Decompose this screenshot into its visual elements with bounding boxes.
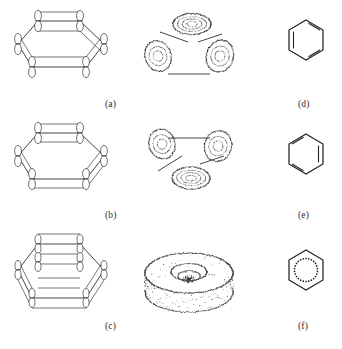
- p-orbital-lobe: [35, 235, 41, 254]
- p-orbital-lobe: [15, 145, 22, 166]
- p-orbital-lobe: [83, 168, 90, 189]
- p-orbital-lobe: [83, 56, 90, 77]
- p-orbital-lobe: [77, 235, 83, 254]
- panel-b-dotted-isosurface: [138, 116, 246, 208]
- p-orbital-lobe: [15, 261, 21, 280]
- panel-a-dotted-isosurface: [138, 4, 246, 96]
- aromatic-circle-dots: [294, 258, 319, 283]
- p-orbital-lobe: [101, 261, 107, 280]
- panel-c-wireframe-orbital-ring: [8, 228, 118, 324]
- p-orbital-lobe: [29, 289, 35, 308]
- figure-canvas: (a) (b) (c) (d) (e) (f): [0, 0, 342, 349]
- panel-b-wireframe-orbital-ring: [8, 116, 118, 208]
- panel-f-aromatic-hexagon: [282, 246, 330, 300]
- panel-e-kekule-hexagon: [282, 130, 330, 184]
- p-orbital-lobe: [29, 56, 36, 77]
- p-orbital-lobe: [83, 289, 89, 308]
- p-orbital-lobe: [101, 145, 108, 166]
- panel-a-wireframe-orbital-ring: [8, 4, 118, 96]
- caption-f: (f): [298, 321, 308, 331]
- caption-a: (a): [105, 99, 116, 109]
- p-orbital-lobe: [35, 253, 41, 272]
- p-orbital-lobe: [77, 10, 84, 31]
- caption-b: (b): [105, 210, 117, 220]
- p-orbital-lobe: [35, 122, 42, 143]
- p-orbital-lobe: [15, 33, 22, 54]
- p-orbital-lobe: [35, 10, 42, 31]
- panel-d-kekule-hexagon: [282, 16, 330, 70]
- p-orbital-lobe: [101, 33, 108, 54]
- caption-c: (c): [105, 321, 116, 331]
- caption-e: (e): [298, 210, 309, 220]
- p-orbital-lobe: [77, 253, 83, 272]
- caption-d: (d): [298, 99, 310, 109]
- panel-c-dotted-torus-isosurface: [130, 226, 248, 326]
- p-orbital-lobe: [29, 168, 36, 189]
- p-orbital-lobe: [77, 122, 84, 143]
